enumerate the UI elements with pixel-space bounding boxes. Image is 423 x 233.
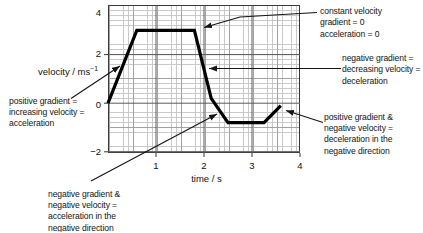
annotation-line: positive gradient & <box>324 112 393 123</box>
y-axis-label-text: velocity / ms <box>38 66 90 77</box>
annotation-line: decreasing velocity = <box>342 64 420 75</box>
annotation-line: negative direction <box>48 223 120 232</box>
annotation-constant-velocity: constant velocity gradient = 0 accelerat… <box>320 6 382 40</box>
x-tick-label-2: 2 <box>192 160 216 171</box>
annotation-acceleration-negative-direction: negative gradient & negative velocity = … <box>48 189 120 233</box>
leader-arrow-acceleration-negative-direction <box>91 114 217 181</box>
y-tick-label-2: 2 <box>79 48 101 59</box>
annotation-line: acceleration = 0 <box>320 29 382 40</box>
annotation-line: positive gradient = <box>9 96 85 107</box>
annotation-line: gradient = 0 <box>320 17 382 28</box>
annotation-line: negative velocity = <box>48 200 120 211</box>
annotation-line: negative direction <box>324 146 393 157</box>
annotation-line: acceleration in the <box>48 211 120 222</box>
velocity-time-graph-figure: 4 2 0 −2 1 2 3 4 velocity / ms−1 time / … <box>0 0 423 232</box>
annotation-line: negative gradient & <box>48 189 120 200</box>
leader-arrow-deceleration-negative-direction <box>286 111 323 123</box>
annotation-acceleration: positive gradient = increasing velocity … <box>9 96 85 130</box>
annotation-line: acceleration <box>9 118 85 129</box>
annotation-line: deceleration <box>342 76 420 87</box>
velocity-curve <box>108 30 281 122</box>
x-tick-label-1: 1 <box>144 160 168 171</box>
annotation-line: negative gradient = <box>342 53 420 64</box>
annotation-line: deceleration in the <box>324 134 393 145</box>
y-axis-label-exponent: −1 <box>90 65 98 72</box>
leader-arrow-constant-velocity <box>204 13 317 28</box>
y-axis-label: velocity / ms−1 <box>16 63 98 77</box>
x-axis-label: time / s <box>176 173 237 184</box>
annotation-line: negative velocity = <box>324 123 393 134</box>
x-tick-label-4: 4 <box>288 160 312 171</box>
annotation-line: increasing velocity = <box>9 107 85 118</box>
x-tick-label-3: 3 <box>240 160 264 171</box>
y-tick-label-minus2: −2 <box>79 146 101 157</box>
annotation-deceleration-negative-direction: positive gradient & negative velocity = … <box>324 112 393 158</box>
annotation-line: constant velocity <box>320 6 382 17</box>
y-tick-label-4: 4 <box>79 7 101 18</box>
annotation-deceleration: negative gradient = decreasing velocity … <box>342 53 420 87</box>
